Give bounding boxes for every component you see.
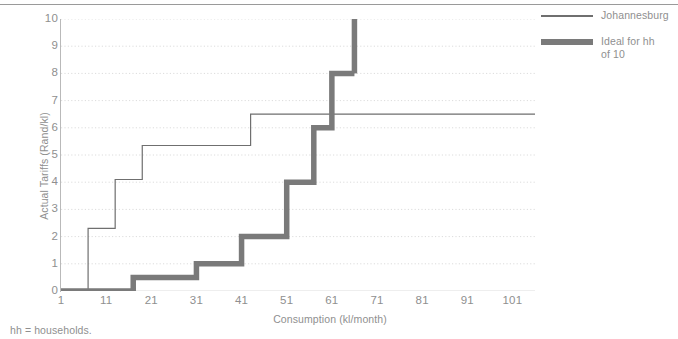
footnote: hh = households. [10, 324, 92, 336]
legend-label-ideal: Ideal for hhof 10 [601, 35, 655, 60]
legend-item-ideal: Ideal for hhof 10 [541, 35, 678, 60]
y-tick-label: 6 [18, 122, 58, 133]
y-tick-label: 5 [18, 149, 58, 160]
x-tick-label: 21 [136, 294, 166, 306]
thick-line-swatch-icon [541, 35, 593, 49]
x-tick-label: 81 [407, 294, 437, 306]
x-tick-label: 91 [452, 294, 482, 306]
y-tick-label: 1 [18, 258, 58, 269]
y-tick-label: 7 [18, 95, 58, 106]
series-line [61, 114, 535, 291]
legend-label-ideal-line1: Ideal for hh [601, 35, 655, 47]
x-tick-label: 1 [46, 294, 76, 306]
legend-label-ideal-line2: of 10 [601, 48, 625, 60]
top-divider [0, 4, 678, 5]
y-tick-label: 9 [18, 40, 58, 51]
x-tick-label: 51 [272, 294, 302, 306]
plot-area [61, 19, 535, 291]
x-axis-label: Consumption (kl/month) [180, 313, 480, 325]
y-tick-label: 10 [18, 13, 58, 24]
x-tick-label: 11 [91, 294, 121, 306]
plot-svg [61, 19, 535, 291]
chart-figure: Actual Tariffs (Rand/kl) 012345678910 11… [0, 0, 678, 339]
y-tick-label: 8 [18, 67, 58, 78]
chart-legend: Johannesburg Ideal for hhof 10 [541, 9, 678, 72]
y-tick-label: 3 [18, 203, 58, 214]
legend-label-johannesburg: Johannesburg [601, 9, 669, 22]
x-tick-label: 101 [497, 294, 527, 306]
y-tick-label: 2 [18, 231, 58, 242]
x-tick-label: 61 [317, 294, 347, 306]
x-axis-ticks: 1112131415161718191101 [0, 294, 678, 314]
y-axis-ticks: 012345678910 [10, 0, 58, 339]
y-tick-label: 4 [18, 176, 58, 187]
thin-line-swatch-icon [541, 9, 593, 23]
legend-item-johannesburg: Johannesburg [541, 9, 678, 23]
x-tick-label: 71 [362, 294, 392, 306]
x-tick-label: 41 [227, 294, 257, 306]
x-tick-label: 31 [181, 294, 211, 306]
